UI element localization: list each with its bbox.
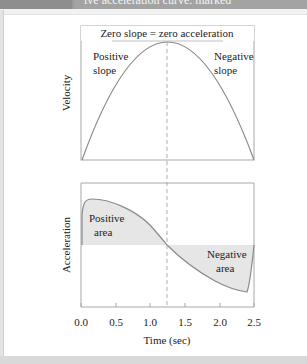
acceleration-axis-label: Acceleration xyxy=(60,216,72,273)
negative-area-label-2: area xyxy=(216,262,234,274)
x-tick-label: 2.5 xyxy=(247,316,261,328)
x-axis-ticks xyxy=(81,303,254,307)
negative-area-label-1: Negative xyxy=(207,248,247,260)
x-tick-label: 0.5 xyxy=(109,316,123,328)
x-tick-label: 0.0 xyxy=(74,316,88,328)
velocity-plot-frame xyxy=(81,26,254,160)
negative-slope-label-1: Negative xyxy=(214,50,254,62)
velocity-axis-label: Velocity xyxy=(60,74,72,111)
x-tick-label: 1.5 xyxy=(178,316,192,328)
chart-svg: Zero slope = zero acceleration Positive … xyxy=(0,0,307,364)
x-tick-label: 1.0 xyxy=(143,316,157,328)
positive-slope-label-1: Positive xyxy=(93,50,129,62)
positive-slope-label-2: slope xyxy=(93,64,116,76)
positive-area-label-2: area xyxy=(94,226,112,238)
figure-frame: ive acceleration curve. marked Zero slop… xyxy=(0,0,307,364)
negative-slope-label-2: slope xyxy=(214,64,237,76)
x-tick-label: 2.0 xyxy=(213,316,227,328)
x-axis-label: Time (sec) xyxy=(144,334,191,347)
positive-area-label-1: Positive xyxy=(89,212,125,224)
velocity-panel-title: Zero slope = zero acceleration xyxy=(100,27,234,39)
